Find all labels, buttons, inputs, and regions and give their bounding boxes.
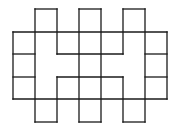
grid-shape-diagram: [0, 0, 179, 131]
